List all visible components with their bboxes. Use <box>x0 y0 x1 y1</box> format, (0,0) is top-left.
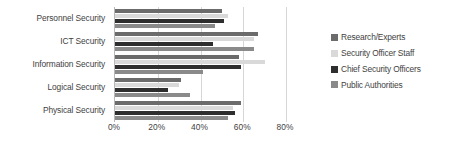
bar <box>115 116 228 120</box>
bar <box>115 55 239 59</box>
axis-tick-label: 60% <box>234 123 251 131</box>
category-label: Personnel Security <box>0 7 110 30</box>
bar <box>115 65 241 69</box>
legend-swatch-icon <box>331 81 338 88</box>
axis-tick-label: 0% <box>108 123 120 131</box>
legend-label: Public Authorities <box>341 81 403 89</box>
bar <box>115 78 181 82</box>
legend-label: Security Officer Staff <box>341 49 414 57</box>
plot-area <box>114 7 285 122</box>
bar <box>115 42 213 46</box>
bar-chart: Personnel Security ICT Security Informat… <box>0 0 457 151</box>
value-axis: 0% 20% 40% 60% 80% <box>114 123 285 137</box>
bar <box>115 70 203 74</box>
bar <box>115 37 254 41</box>
bar <box>115 60 265 64</box>
legend-swatch-icon <box>331 34 338 41</box>
category-axis: Personnel Security ICT Security Informat… <box>0 7 110 122</box>
category-label: Physical Security <box>0 99 110 122</box>
legend-item: Security Officer Staff <box>331 49 457 57</box>
bar <box>115 101 241 105</box>
axis-tick-label: 20% <box>148 123 165 131</box>
bar <box>115 111 235 115</box>
bar <box>115 88 168 92</box>
bar-group <box>115 7 457 30</box>
axis-tick-label: 80% <box>277 123 294 131</box>
chart-legend: Research/Experts Security Officer Staff … <box>331 33 457 89</box>
bar <box>115 93 190 97</box>
legend-label: Research/Experts <box>341 33 405 41</box>
legend-item: Chief Security Officers <box>331 65 457 73</box>
bar <box>115 32 258 36</box>
legend-swatch-icon <box>331 66 338 73</box>
legend-swatch-icon <box>331 50 338 57</box>
bar <box>115 24 215 28</box>
bar <box>115 83 179 87</box>
bar-group <box>115 99 457 122</box>
bar <box>115 19 224 23</box>
category-label: Logical Security <box>0 76 110 99</box>
category-label: Information Security <box>0 53 110 76</box>
bar <box>115 9 222 13</box>
bar <box>115 47 254 51</box>
bar <box>115 106 233 110</box>
legend-item: Research/Experts <box>331 33 457 41</box>
axis-tick-label: 40% <box>191 123 208 131</box>
bar <box>115 14 228 18</box>
category-label: ICT Security <box>0 30 110 53</box>
legend-label: Chief Security Officers <box>341 65 421 73</box>
legend-item: Public Authorities <box>331 81 457 89</box>
